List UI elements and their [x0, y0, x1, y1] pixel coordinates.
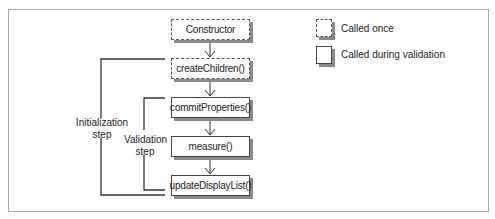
node-label: updateDisplayList() [170, 180, 252, 191]
initialization-step-label: Initialization step [74, 117, 130, 141]
legend-swatch-dashed [316, 19, 332, 37]
node-update-display-list: updateDisplayList() [171, 175, 250, 196]
legend-label-called-during-validation: Called during validation [341, 49, 445, 60]
label-line: step [124, 146, 166, 158]
node-create-children: createChildren() [171, 58, 250, 79]
label-line: step [74, 129, 130, 141]
label-line: Initialization [74, 117, 130, 129]
node-label: measure() [189, 141, 233, 152]
node-label: createChildren() [176, 63, 245, 74]
legend-label-called-once: Called once [341, 23, 394, 34]
node-label: Constructor [186, 24, 236, 35]
node-constructor: Constructor [171, 19, 250, 40]
node-label: commitProperties() [170, 102, 251, 113]
legend-swatch-solid [316, 46, 332, 64]
node-commit-properties: commitProperties() [171, 97, 250, 118]
node-measure: measure() [171, 136, 250, 157]
validation-step-label: Validation step [124, 134, 166, 158]
label-line: Validation [124, 134, 166, 146]
